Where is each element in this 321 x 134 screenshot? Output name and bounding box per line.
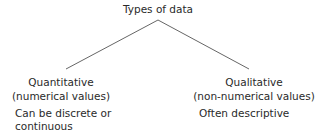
quantitative-heading: Quantitative	[28, 76, 93, 89]
diagram-title: Types of data	[123, 3, 193, 16]
branch-line-right	[158, 20, 249, 69]
qualitative-heading: Qualitative	[225, 76, 282, 89]
quantitative-description-1: Can be discrete or	[15, 107, 111, 120]
quantitative-description-2: continuous	[15, 120, 73, 133]
quantitative-subheading: (numerical values)	[12, 90, 110, 103]
qualitative-subheading: (non-numerical values)	[193, 90, 315, 103]
branch-line-left	[66, 20, 158, 69]
qualitative-description-1: Often descriptive	[199, 107, 289, 120]
